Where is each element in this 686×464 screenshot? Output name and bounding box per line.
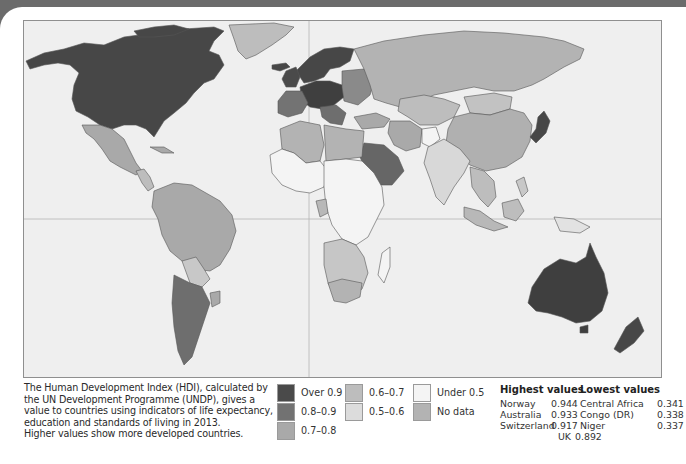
world-hdi-map — [23, 20, 662, 378]
legend-label: No data — [437, 406, 475, 417]
highest-value: 0.892 — [575, 431, 602, 442]
region-france-spain — [278, 91, 308, 117]
highest-value: 0.944 — [551, 398, 578, 409]
map-caption: The Human Development Index (HDI), calcu… — [24, 382, 274, 440]
legend-label: 0.5–0.6 — [369, 406, 404, 417]
lowest-value: 0.338 — [657, 409, 684, 420]
highest-value: 0.933 — [551, 409, 578, 420]
region-iran — [388, 121, 422, 151]
legend-item-0-8-0-9: 0.8–0.9 — [277, 402, 336, 421]
highest-country: Switzerland — [500, 420, 555, 431]
region-new-zealand — [614, 317, 644, 353]
region-russia — [354, 31, 584, 107]
legend-label: 0.8–0.9 — [301, 406, 336, 417]
region-borneo — [502, 199, 524, 221]
legend-item-0-6-0-7: 0.6–0.7 — [345, 383, 404, 402]
region-south-africa — [328, 279, 362, 303]
caption-line: value to countries using indicators of l… — [24, 405, 274, 417]
caption-line: The Human Development Index (HDI), calcu… — [24, 382, 274, 394]
highest-values-heading: Highest values — [500, 384, 584, 395]
highest-country: Norway — [500, 398, 536, 409]
region-turkey — [354, 113, 390, 129]
legend-item-0-7-0-8: 0.7–0.8 — [277, 421, 336, 440]
legend-item-over-0-9: Over 0.9 — [277, 383, 342, 402]
lowest-value: 0.341 — [657, 398, 684, 409]
region-argentina-chile — [172, 275, 210, 365]
map-legend: Over 0.9 0.8–0.9 0.7–0.8 0.6–0.7 0.5–0.6… — [277, 383, 487, 443]
caption-line: the UN Development Programme (UNDP), giv… — [24, 394, 274, 406]
lowest-values-heading: Lowest values — [580, 384, 660, 395]
legend-item-under-0-5: Under 0.5 — [413, 383, 484, 402]
region-australia — [528, 243, 608, 323]
legend-swatch — [413, 384, 431, 402]
lowest-country: Central Africa — [580, 398, 644, 409]
legend-swatch — [277, 384, 295, 402]
lowest-country: Niger — [580, 420, 605, 431]
legend-swatch — [277, 403, 295, 421]
region-iceland — [272, 63, 290, 71]
region-philippines — [516, 177, 528, 197]
highest-value: 0.917 — [551, 420, 578, 431]
highest-country: Australia — [500, 409, 541, 420]
region-italy-balkans — [320, 105, 346, 125]
legend-item-0-5-0-6: 0.5–0.6 — [345, 402, 404, 421]
region-greenland — [229, 23, 294, 59]
region-uruguay — [210, 291, 220, 307]
region-central-asia — [398, 95, 460, 125]
region-libya-egypt — [324, 125, 364, 161]
region-cuba — [150, 147, 174, 153]
caption-line: education and standards of living in 201… — [24, 417, 274, 429]
region-mexico — [82, 125, 142, 175]
legend-swatch — [413, 403, 431, 421]
region-gabon — [316, 199, 328, 217]
lowest-country: Congo (DR) — [580, 409, 634, 420]
region-uk — [282, 67, 300, 87]
region-tasmania — [580, 325, 588, 333]
legend-label: 0.6–0.7 — [369, 387, 404, 398]
highest-country: UK — [558, 431, 571, 442]
region-korea-japan — [530, 111, 550, 143]
region-north-america — [26, 27, 224, 137]
legend-item-no-data: No data — [413, 402, 475, 421]
caption-line: Higher values show more developed countr… — [24, 428, 274, 440]
legend-swatch — [277, 422, 295, 440]
region-central-america — [136, 169, 154, 191]
legend-label: 0.7–0.8 — [301, 425, 336, 436]
map-svg — [24, 21, 661, 377]
legend-label: Under 0.5 — [437, 387, 484, 398]
legend-swatch — [345, 384, 363, 402]
region-madagascar — [378, 247, 390, 283]
lowest-value: 0.337 — [657, 420, 684, 431]
legend-swatch — [345, 403, 363, 421]
region-southeast-asia — [470, 167, 496, 207]
legend-label: Over 0.9 — [301, 387, 342, 398]
